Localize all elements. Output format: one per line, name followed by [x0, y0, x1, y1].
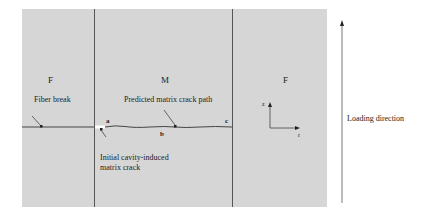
point-b-label: b	[160, 131, 164, 138]
initial-crack-label-line1: Initial cavity-induced	[100, 154, 169, 162]
diagram-lines	[0, 0, 430, 217]
loading-direction-label: Loading direction	[347, 115, 404, 123]
region-left-fiber: F	[48, 76, 53, 85]
region-matrix: M	[161, 76, 169, 85]
region-right-fiber: F	[283, 76, 288, 85]
predicted-crack-label: Predicted matrix crack path	[124, 96, 212, 104]
point-c-label: c	[225, 118, 228, 125]
axis-z-label: z	[262, 101, 265, 107]
initial-crack-label-line2: matrix crack	[100, 164, 140, 172]
axis-r-label: r	[298, 132, 300, 138]
point-a-label: a	[106, 118, 110, 125]
fiber-break-label: Fiber break	[34, 96, 71, 104]
